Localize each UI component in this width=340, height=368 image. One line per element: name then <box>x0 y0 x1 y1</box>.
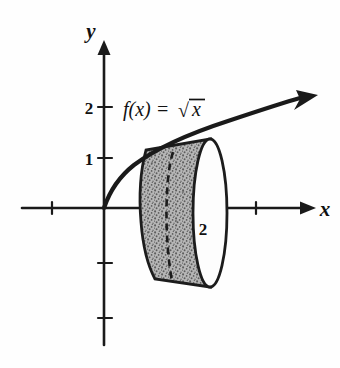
y-tick-label-1: 1 <box>85 150 94 169</box>
solid-of-revolution <box>140 139 227 287</box>
radicand: x <box>191 98 201 120</box>
y-tick-label-2: 2 <box>85 99 94 118</box>
function-label-prefix: f(x) = <box>123 98 169 121</box>
solid-of-revolution-figure: y x 2 1 2 f(x) = √ x <box>0 0 340 368</box>
x-axis-label: x <box>319 197 331 221</box>
x-axis-arrowhead <box>300 202 316 215</box>
function-label: f(x) = √ x <box>123 98 205 121</box>
front-face-ellipse <box>193 139 227 287</box>
y-axis-label: y <box>83 19 96 43</box>
y-axis-arrowhead <box>98 40 111 55</box>
figure-root: y x 2 1 2 f(x) = √ x <box>0 0 340 368</box>
radical-sign: √ <box>178 99 189 121</box>
x-tick-label-2: 2 <box>199 220 208 239</box>
